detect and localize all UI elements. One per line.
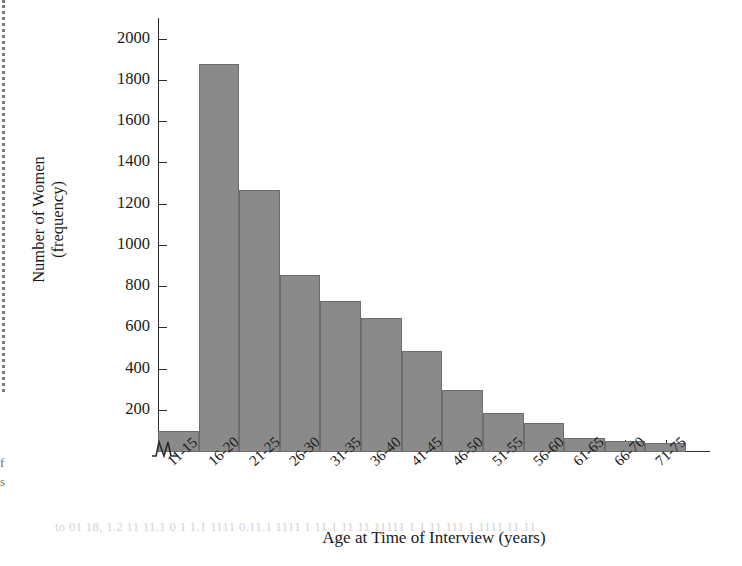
x-axis-title: Age at Time of Interview (years) [158,528,710,548]
x-tick-label-61-65: 61-65 [570,434,607,470]
x-tick-label-16-20: 16-20 [205,434,242,470]
x-tick-label-46-50: 46-50 [449,434,486,470]
x-tick-label-41-45: 41-45 [408,434,445,470]
x-tick-label-71-75: 71-75 [652,434,689,470]
figure-page: f s to 01 18, 1.2 11 11.1 0 1 1.1 1111 0… [0,0,742,566]
x-tick-label-26-30: 26-30 [286,434,323,470]
x-tick-label-56-60: 56-60 [530,434,567,470]
x-tick-label-36-40: 36-40 [367,434,404,470]
x-tick-label-21-25: 21-25 [246,434,283,470]
x-tick-label-31-35: 31-35 [327,434,364,470]
histogram-chart: Number of Women (frequency) 200400600800… [0,0,742,566]
x-tick-label-51-55: 51-55 [489,434,526,470]
x-tick-label-11-15: 11-15 [164,434,201,470]
x-tick-label-66-70: 66-70 [611,434,648,470]
x-axis-tick-labels: 11-1516-2021-2526-3031-3536-4041-4546-50… [0,0,742,566]
